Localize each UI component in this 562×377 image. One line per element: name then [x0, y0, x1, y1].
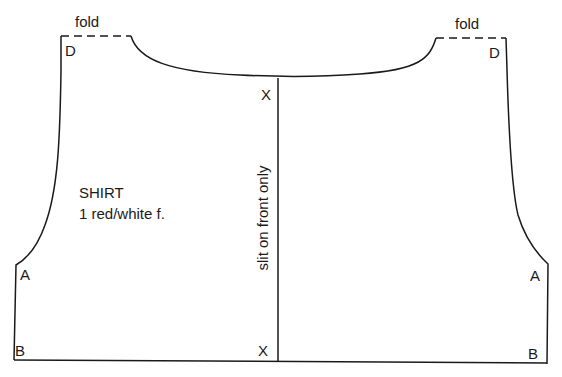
neckline-curve	[131, 36, 436, 76]
piece-label: SHIRT 1 red/white f.	[79, 182, 165, 224]
piece-instruction: 1 red/white f.	[79, 203, 165, 224]
point-a-right: A	[530, 268, 540, 283]
hem-line	[14, 360, 547, 363]
left-side-seam	[14, 36, 61, 360]
point-x-bottom: X	[258, 343, 268, 358]
slit-note: slit on front only	[254, 165, 271, 270]
point-d-left: D	[65, 43, 76, 58]
point-b-right: B	[528, 346, 538, 361]
point-a-left: A	[20, 267, 30, 282]
right-side-seam	[506, 38, 548, 364]
point-d-right: D	[489, 45, 500, 60]
piece-name: SHIRT	[79, 182, 165, 203]
fold-label-left: fold	[75, 14, 99, 29]
point-b-left: B	[15, 343, 25, 358]
point-x-top: X	[261, 87, 271, 102]
fold-label-right: fold	[455, 16, 479, 31]
